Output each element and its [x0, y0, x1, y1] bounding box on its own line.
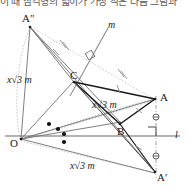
- point-label-C: C: [70, 70, 77, 81]
- equal-length-tick-marks: [53, 40, 142, 150]
- length-label-bottom: x√3 m: [70, 161, 95, 171]
- right-angle-mark-on-l: [148, 127, 156, 136]
- length-label-left: x√3 m: [7, 75, 32, 85]
- segment-B-A-prime: [120, 124, 155, 172]
- line-label-m: m: [108, 20, 115, 30]
- line-label-l: l: [175, 130, 178, 140]
- geometry-figure: 이 때 삼각형의 넓이가 가장 작은 다음 그림과: [0, 0, 187, 190]
- point-label-O: O: [10, 138, 18, 149]
- point-label-B: B: [117, 126, 124, 137]
- point-label-A: A: [160, 92, 168, 103]
- point-label-A-double-prime: A″: [22, 13, 35, 24]
- segment-C-A-prime: [74, 82, 155, 172]
- point-label-A-prime: A′: [157, 172, 167, 183]
- length-label-center: x√3 m: [92, 100, 117, 110]
